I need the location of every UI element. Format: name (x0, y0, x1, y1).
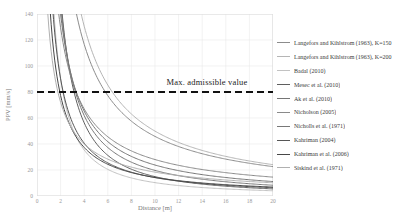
y-tick-label: 20 (16, 167, 33, 173)
legend-label: Kahriman et al. (2006) (294, 151, 349, 157)
legend-item: Ak et al. (2010) (277, 92, 409, 106)
legend: Langefors and Kihlstrom (1963), K=150Lan… (277, 36, 409, 175)
legend-item: Mesec et al. (2010) (277, 78, 409, 92)
legend-line-swatch (277, 42, 290, 43)
legend-label: Nicholson (2005) (294, 109, 336, 115)
legend-line-swatch (277, 126, 290, 127)
y-tick-label: 60 (16, 115, 33, 121)
y-tick-label: 40 (16, 141, 33, 147)
legend-item: Langefors and Kihlstrom (1963), K=200 (277, 50, 409, 64)
legend-item: Nicholls et al. (1971) (277, 119, 409, 133)
series-curve (48, 14, 273, 182)
plot-svg (37, 14, 273, 196)
legend-label: Siskind et al. (1971) (294, 165, 343, 171)
legend-line-swatch (277, 84, 290, 85)
y-tick-label: 100 (16, 63, 33, 69)
legend-line-swatch (277, 140, 290, 141)
legend-item: Kahriman (2004) (277, 133, 409, 147)
ppv-distance-chart: PPV [mm/s] Max. admissible value 0246810… (0, 0, 410, 223)
legend-label: Kahriman (2004) (294, 137, 336, 143)
legend-item: Langefors and Kihlstrom (1963), K=150 (277, 36, 409, 50)
legend-line-swatch (277, 154, 290, 155)
legend-item: Siskind et al. (1971) (277, 161, 409, 175)
y-tick-label: 0 (16, 193, 33, 199)
legend-line-swatch (277, 112, 290, 113)
legend-label: Badal (2010) (294, 68, 326, 74)
legend-label: Langefors and Kihlstrom (1963), K=150 (294, 40, 392, 46)
series-curve (46, 14, 273, 177)
legend-item: Kahriman et al. (2006) (277, 147, 409, 161)
legend-line-swatch (277, 167, 290, 168)
legend-label: Ak et al. (2010) (294, 96, 332, 102)
legend-line-swatch (277, 56, 290, 57)
legend-item: Nicholson (2005) (277, 105, 409, 119)
x-axis-label: Distance [m] (37, 204, 273, 211)
legend-line-swatch (277, 70, 290, 71)
plot-area: Max. admissible value (37, 14, 273, 196)
legend-label: Nicholls et al. (1971) (294, 123, 345, 129)
y-axis-label: PPV [mm/s] (4, 75, 14, 135)
threshold-label: Max. admissible value (142, 77, 272, 87)
y-tick-label: 120 (16, 37, 33, 43)
legend-label: Mesec et al. (2010) (294, 82, 340, 88)
series-curve (56, 14, 273, 165)
y-tick-label: 80 (16, 89, 33, 95)
legend-line-swatch (277, 98, 290, 99)
legend-item: Badal (2010) (277, 64, 409, 78)
legend-label: Langefors and Kihlstrom (1963), K=200 (294, 54, 392, 60)
y-tick-label: 140 (16, 11, 33, 17)
